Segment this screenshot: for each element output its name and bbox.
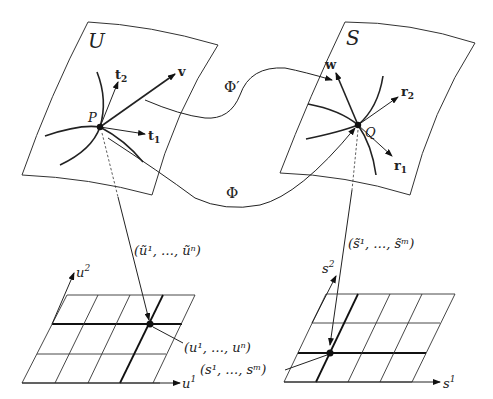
vector-r2-label: r2 — [401, 84, 414, 101]
axis-u2-arrow — [52, 273, 74, 324]
point-q-label: Q — [365, 125, 376, 140]
chart-map-left-arrow — [118, 197, 149, 320]
map-phi-label: Φ — [226, 184, 238, 202]
vector-v-label: v — [177, 64, 186, 79]
vector-t1-label: t1 — [148, 128, 160, 145]
right-coordinate-grid — [284, 276, 455, 382]
axis-s2-label: s2 — [322, 259, 335, 276]
chart-point-s — [327, 350, 334, 357]
axis-u2-label: u2 — [76, 263, 90, 280]
surface-u-outline — [22, 22, 218, 195]
axis-s1-label: s1 — [443, 374, 455, 391]
leader-line — [285, 355, 327, 370]
manifold-map-diagram: U P t2 v t1 S Q w r2 r1 Φ′ — [0, 0, 493, 399]
surface-s-outline — [280, 22, 475, 195]
chart-map-right-label: (s̃¹, …, s̃ᵐ) — [348, 236, 414, 251]
map-phi-prime-label: Φ′ — [224, 78, 240, 96]
coordinate-curve — [60, 72, 103, 165]
vector-r2-arrow — [358, 97, 398, 125]
surface-u: U P t2 v t1 — [22, 22, 218, 195]
vector-v-arrow — [100, 74, 175, 127]
point-q-dot — [355, 122, 361, 128]
surface-u-label: U — [88, 29, 106, 53]
vector-w-label: w — [324, 57, 337, 72]
surface-s-label: S — [346, 26, 360, 50]
point-p-label: P — [87, 110, 97, 125]
vector-r1-label: r1 — [394, 158, 407, 175]
coordinate-curve — [306, 125, 358, 139]
left-coordinate-grid — [22, 273, 195, 383]
vector-t2-label: t2 — [115, 67, 127, 84]
chart-map-left-label: (ũ¹, …, ũⁿ) — [134, 243, 201, 258]
chart-point-u — [147, 321, 154, 328]
surface-s: S Q w r2 r1 — [280, 22, 475, 195]
map-phi: Φ — [108, 128, 355, 207]
chart-point-s-label: (s¹, …, sᵐ) — [200, 362, 266, 377]
coordinate-curve — [45, 126, 100, 136]
point-p-dot — [97, 124, 103, 130]
axis-u1-label: u1 — [182, 374, 196, 391]
coordinate-curve — [358, 76, 383, 125]
chart-point-u-label: (u¹, …, uⁿ) — [184, 340, 251, 355]
axis-s2-arrow — [312, 276, 336, 323]
